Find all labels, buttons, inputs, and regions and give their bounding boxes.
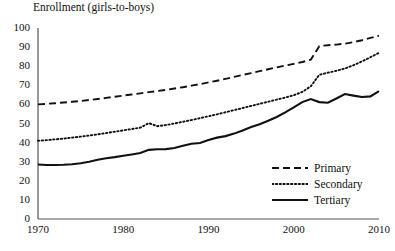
- legend-label-primary: Primary: [314, 162, 351, 174]
- legend: Primary Secondary Tertiary: [272, 160, 363, 208]
- legend-item-secondary: Secondary: [272, 176, 363, 192]
- y-tick-0: 0: [2, 213, 30, 224]
- plot-area: [0, 0, 395, 251]
- y-tick-60: 60: [2, 98, 30, 109]
- x-tick-1980: 1980: [101, 224, 145, 235]
- legend-label-secondary: Secondary: [314, 178, 363, 190]
- legend-item-tertiary: Tertiary: [272, 192, 363, 208]
- x-tick-2010: 2010: [357, 224, 395, 235]
- legend-label-tertiary: Tertiary: [314, 194, 350, 206]
- y-tick-40: 40: [2, 137, 30, 148]
- legend-swatch-primary-icon: [272, 162, 308, 174]
- legend-swatch-tertiary-icon: [272, 194, 308, 206]
- y-tick-30: 30: [2, 156, 30, 167]
- y-tick-90: 90: [2, 41, 30, 52]
- enrollment-chart: Enrollment (girls-to-boys) 1009080706050…: [0, 0, 395, 251]
- series-line-tertiary: [38, 91, 379, 165]
- x-tick-1990: 1990: [187, 224, 231, 235]
- y-tick-50: 50: [2, 118, 30, 129]
- y-tick-10: 10: [2, 194, 30, 205]
- y-tick-80: 80: [2, 60, 30, 71]
- series-line-secondary: [38, 53, 379, 141]
- legend-item-primary: Primary: [272, 160, 363, 176]
- series-line-primary: [38, 36, 379, 105]
- x-tick-2000: 2000: [272, 224, 316, 235]
- y-tick-70: 70: [2, 79, 30, 90]
- y-tick-20: 20: [2, 175, 30, 186]
- x-tick-1970: 1970: [16, 224, 60, 235]
- legend-swatch-secondary-icon: [272, 178, 308, 190]
- y-tick-100: 100: [2, 22, 30, 33]
- series-group: [38, 36, 379, 165]
